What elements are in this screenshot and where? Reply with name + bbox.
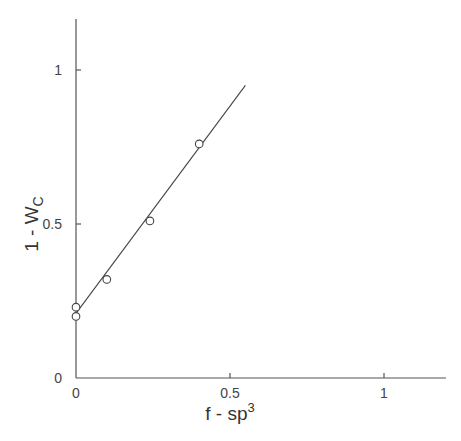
regression-line (76, 85, 245, 313)
y-ticks: 00.51 (43, 62, 81, 386)
x-axis-label: f - sp3 (205, 400, 254, 424)
y-tick-label: 0.5 (43, 216, 63, 232)
axes (76, 19, 446, 378)
data-point-marker (103, 276, 111, 284)
y-tick-label: 1 (54, 62, 62, 78)
x-tick-label: 1 (380, 385, 388, 401)
data-point-marker (72, 303, 80, 311)
x-tick-label: 0 (72, 385, 80, 401)
data-point-marker (146, 217, 154, 225)
x-ticks: 00.51 (72, 373, 388, 401)
chart: 00.51 00.51 f - sp3 1 - WC (0, 0, 461, 441)
x-tick-label: 0.5 (220, 385, 240, 401)
data-point-marker (72, 313, 80, 321)
fit-line (76, 85, 245, 313)
data-point-marker (195, 140, 203, 148)
y-tick-label: 0 (54, 370, 62, 386)
